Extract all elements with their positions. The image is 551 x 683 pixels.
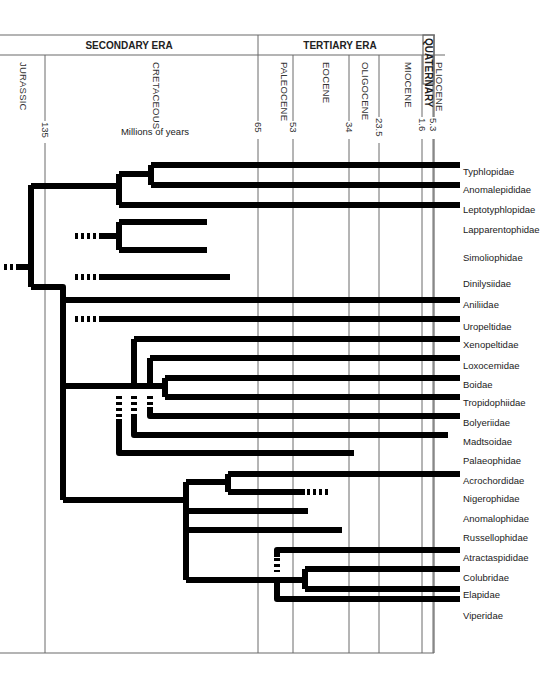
taxon-label: Uropeltidae — [463, 321, 512, 332]
branch-bolyeriidae — [150, 407, 460, 416]
period-label-miocene: MIOCENE — [403, 62, 414, 108]
taxon-label: Simoliophidae — [463, 252, 523, 263]
taxon-label: Madtsoidae — [463, 436, 512, 447]
taxon-label: Bolyeriidae — [463, 417, 510, 428]
taxon-label: Colubridae — [463, 572, 509, 583]
taxon-label: Loxocemidae — [463, 360, 520, 371]
snake-phylogeny-chart: SECONDARY ERA TERTIARY ERA QUATERNARY JU… — [0, 0, 551, 683]
boundary-ages: 135 65 53 34 23.5 5.3 1.6 — [40, 117, 439, 143]
taxon-label: Nigerophidae — [463, 493, 520, 504]
era-label-tertiary: TERTIARY ERA — [303, 40, 376, 51]
tick-label-65: 65 — [253, 122, 264, 133]
tick-label-53: 53 — [288, 122, 299, 133]
taxon-label: Viperidae — [463, 610, 503, 621]
taxon-label: Tropidophiidae — [463, 397, 526, 408]
period-label-eocene: EOCENE — [321, 62, 332, 103]
taxon-label: Atractaspididae — [463, 552, 528, 563]
tick-label-34: 34 — [344, 122, 355, 133]
taxon-label: Xenopeltidae — [463, 339, 518, 350]
tick-label-23-5: 23.5 — [374, 118, 385, 137]
taxon-label: Anomalophidae — [463, 513, 529, 524]
tick-label-5-3: 5.3 — [428, 118, 439, 131]
axis-label-millions-of-years: Millions of years — [121, 126, 189, 137]
phylogeny-tree — [4, 165, 460, 599]
taxon-label: Russellophidae — [463, 532, 528, 543]
taxon-label: Dinilysiidae — [463, 278, 511, 289]
period-label-paleocene: PALEOCENE — [279, 62, 290, 121]
era-label-secondary: SECONDARY ERA — [85, 40, 172, 51]
alethinophidia-node — [31, 287, 63, 500]
taxon-labels: Typhlopidae Anomalepididae Leptotyphlopi… — [463, 166, 540, 621]
period-label-oligocene: OLIGOCENE — [360, 62, 371, 120]
tick-label-1-6: 1.6 — [417, 118, 428, 131]
taxon-label: Palaeophidae — [463, 455, 521, 466]
period-label-pliocene: PLIOCENE — [434, 62, 445, 112]
taxon-label: Leptotyphlopidae — [463, 204, 535, 215]
period-label-jurassic: JURASSIC — [18, 62, 29, 111]
tick-label-135: 135 — [40, 122, 51, 138]
taxon-label: Aniliidae — [463, 299, 499, 310]
taxon-label: Typhlopidae — [463, 166, 514, 177]
taxon-label: Acrochordidae — [463, 475, 524, 486]
taxon-label: Anomalepididae — [463, 184, 531, 195]
era-label-quaternary: QUATERNARY — [423, 38, 434, 108]
period-label-cretaceous: CRETACEOUS — [151, 62, 162, 129]
taxon-label: Lapparentophidae — [463, 224, 540, 235]
taxon-label: Elapidae — [463, 589, 500, 600]
taxon-label: Boidae — [463, 379, 493, 390]
